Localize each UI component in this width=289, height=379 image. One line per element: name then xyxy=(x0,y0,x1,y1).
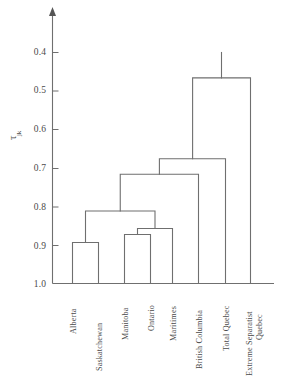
dendrogram-figure: 0.4 0.5 0.6 0.7 0.8 0.9 1.0 τjk xyxy=(0,0,289,379)
leaf-label-manitoba: Manitoba xyxy=(121,307,130,340)
merge-link-m4-m1-m3 xyxy=(86,211,156,243)
dendrogram-links-group xyxy=(73,53,251,284)
leaf-label-saskatchewan: Saskatchewan xyxy=(95,323,104,371)
merge-link-m2-manitoba-ontario xyxy=(125,235,151,284)
merge-link-m7-m6-extreme-separatist-quebec xyxy=(193,78,251,284)
merge-link-m1-alberta-saskatchewan xyxy=(73,243,99,284)
leaf-label-extreme-separatist: Extreme Separatist xyxy=(245,311,254,376)
merge-link-m3-m2-maritimes xyxy=(138,229,173,284)
leaf-label-ontario: Ontario xyxy=(147,305,156,331)
merge-link-m6-m5-total-quebec xyxy=(159,159,225,284)
leaf-label-british-columbia: British Columbia xyxy=(195,310,204,369)
y-axis-arrowhead-icon xyxy=(49,7,56,16)
leaf-label-alberta: Alberta xyxy=(69,308,78,334)
leaf-label-total-quebec: Total Quebec xyxy=(222,305,231,351)
leaf-label-extreme-separatist-quebec-second-line: Quebec xyxy=(255,314,264,340)
leaf-label-maritimes: Maritimes xyxy=(169,306,178,341)
